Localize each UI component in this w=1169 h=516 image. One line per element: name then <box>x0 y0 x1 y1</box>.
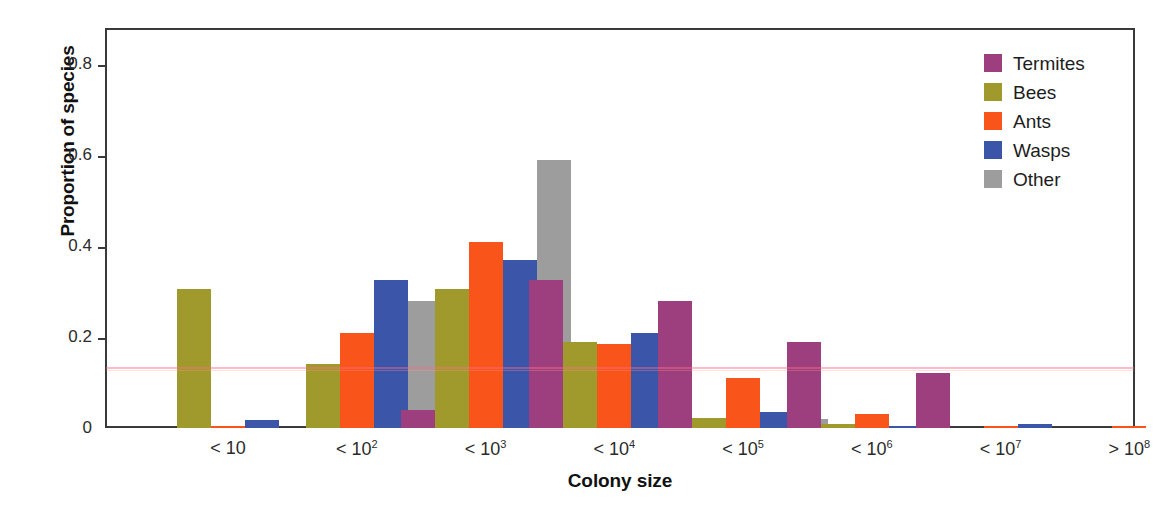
x-tick-label: < 106 <box>851 438 893 460</box>
y-tick-label: 0.6 <box>46 145 92 165</box>
legend-color-swatch <box>984 141 1002 159</box>
y-axis-tick-labels: 00.20.40.60.8 <box>36 0 92 516</box>
x-axis-tick-labels: < 10< 102< 103< 104< 105< 106< 107> 108 <box>105 438 1135 468</box>
plot-area <box>105 28 1135 428</box>
legend-color-swatch <box>984 54 1002 72</box>
legend-color-swatch <box>984 112 1002 130</box>
x-tick-label: < 107 <box>980 438 1022 460</box>
x-tick-label: > 108 <box>1108 438 1150 460</box>
y-tick-mark <box>98 338 107 340</box>
legend-item: Bees <box>984 79 1134 105</box>
legend-item: Other <box>984 166 1134 192</box>
legend-label: Ants <box>1013 112 1051 131</box>
legend-color-swatch <box>984 83 1002 101</box>
y-tick-mark <box>98 156 107 158</box>
legend-color-swatch <box>984 170 1002 188</box>
x-tick-label: < 102 <box>336 438 378 460</box>
legend-label: Bees <box>1013 83 1056 102</box>
legend-item: Ants <box>984 108 1134 134</box>
legend-label: Wasps <box>1013 141 1070 160</box>
x-tick-label: < 104 <box>593 438 635 460</box>
y-tick-label: 0.8 <box>46 54 92 74</box>
x-axis-title: Colony size <box>105 470 1135 492</box>
y-tick-label: 0 <box>46 418 92 438</box>
y-tick-label: 0.2 <box>46 327 92 347</box>
y-tick-label: 0.4 <box>46 236 92 256</box>
x-tick-label: < 105 <box>722 438 764 460</box>
y-tick-mark <box>98 65 107 67</box>
x-tick-label: < 103 <box>465 438 507 460</box>
x-tick-label: < 10 <box>210 438 246 459</box>
bar-chart-figure: Proportion of species 00.20.40.60.8 < 10… <box>0 0 1169 516</box>
legend-item: Termites <box>984 50 1134 76</box>
chart-legend: TermitesBeesAntsWaspsOther <box>984 50 1134 195</box>
legend-label: Termites <box>1013 54 1085 73</box>
legend-item: Wasps <box>984 137 1134 163</box>
y-tick-mark <box>98 247 107 249</box>
legend-label: Other <box>1013 170 1061 189</box>
